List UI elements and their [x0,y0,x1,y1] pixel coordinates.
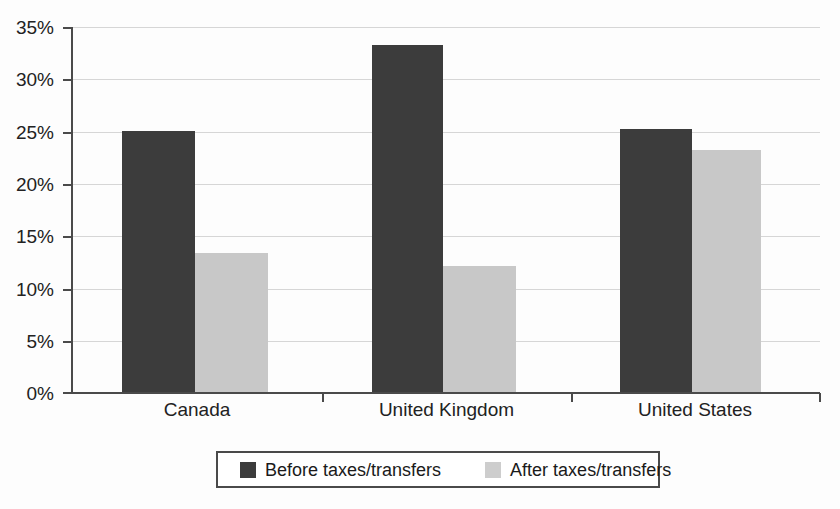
y-axis-label-0: 0% [27,384,54,403]
x-axis-label-united-states: United States [571,399,819,421]
x-axis-line [71,392,820,394]
y-tick-20 [63,184,72,186]
y-axis-label-10: 10% [16,280,54,299]
plot-area [72,27,820,393]
bar-canada-after [195,253,268,393]
bar-united-states-after [692,150,761,393]
legend-item-after[interactable]: After taxes/transfers [485,461,671,479]
y-tick-0 [63,392,72,394]
y-tick-30 [63,79,72,81]
y-axis-label-5: 5% [27,332,54,351]
y-tick-15 [63,236,72,238]
legend-label-before: Before taxes/transfers [265,461,441,479]
gridline-35 [72,27,820,28]
y-tick-10 [63,289,72,291]
legend-label-after: After taxes/transfers [510,461,671,479]
x-axis-label-canada: Canada [72,399,322,421]
bar-united-states-before [620,129,692,393]
x-axis-label-united-kingdom: United Kingdom [322,399,571,421]
y-tick-35 [63,27,72,29]
legend-swatch-before-icon [240,462,256,478]
y-tick-25 [63,132,72,134]
y-axis-line [71,27,73,394]
bar-canada-before [122,131,195,393]
y-axis-label-20: 20% [16,175,54,194]
gridline-30 [72,79,820,80]
bar-united-kingdom-before [372,45,443,393]
legend-swatch-after-icon [485,462,501,478]
y-axis-label-30: 30% [16,70,54,89]
bar-chart: 35% 30% 25% 20% 15% 10% 5% 0% Canada Uni… [0,0,840,509]
legend: Before taxes/transfers After taxes/trans… [216,451,660,488]
y-tick-5 [63,341,72,343]
y-axis-label-35: 35% [16,18,54,37]
category-divider-3 [819,393,821,402]
y-axis-label-15: 15% [16,227,54,246]
y-axis-label-25: 25% [16,123,54,142]
bar-united-kingdom-after [443,266,516,393]
legend-item-before[interactable]: Before taxes/transfers [240,461,441,479]
